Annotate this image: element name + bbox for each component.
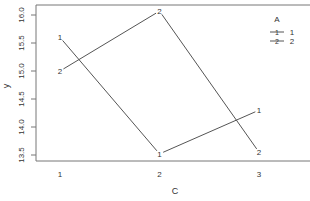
- y-axis: 13.514.014.515.015.516.0: [17, 7, 36, 163]
- legend-marker: 2: [275, 38, 279, 45]
- y-tick-label: 16.0: [17, 7, 26, 23]
- data-point-marker: 2: [157, 7, 162, 16]
- data-point-marker: 1: [257, 106, 262, 115]
- legend-entry: 22: [270, 37, 295, 46]
- plot-frame: [36, 5, 310, 161]
- y-tick-label: 15.5: [17, 35, 26, 51]
- data-point-marker: 2: [257, 148, 262, 157]
- y-tick-label: 15.0: [17, 63, 26, 79]
- series-1: 111: [58, 33, 262, 158]
- series-lines: 111222: [58, 7, 262, 159]
- legend-entry: 11: [270, 28, 295, 37]
- y-tick-label: 14.5: [17, 91, 26, 107]
- series-2: 222: [58, 7, 262, 157]
- data-point-marker: 1: [58, 33, 63, 42]
- legend-label: 1: [290, 28, 295, 37]
- x-axis-label: C: [172, 186, 179, 196]
- data-point-marker: 1: [157, 150, 162, 159]
- legend: A 1122: [270, 15, 295, 46]
- y-axis-label: y: [1, 83, 11, 88]
- x-tick-label: 3: [257, 170, 262, 179]
- y-tick-label: 14.0: [17, 119, 26, 135]
- x-tick-label: 1: [58, 170, 63, 179]
- y-tick-label: 13.5: [17, 147, 26, 163]
- legend-label: 2: [290, 37, 295, 46]
- interaction-plot: 13.514.014.515.015.516.0 123 y C 111222 …: [0, 0, 310, 201]
- x-axis: 123: [58, 170, 262, 179]
- legend-title: A: [274, 15, 280, 24]
- x-tick-label: 2: [157, 170, 162, 179]
- data-point-marker: 2: [58, 67, 63, 76]
- legend-marker: 1: [275, 29, 279, 36]
